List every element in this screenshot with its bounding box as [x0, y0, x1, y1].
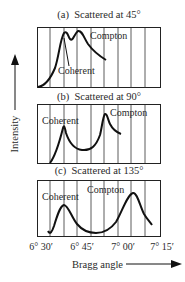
- panel-c-title: (c) Scattered at 135°: [55, 165, 144, 177]
- x-axis-label: Bragg angle: [72, 259, 123, 270]
- panel-b: Coherent Compton: [38, 105, 161, 164]
- x-tick-3: 7° 15′: [150, 241, 174, 252]
- panel-b-title: (b) Scattered at 90°: [57, 91, 141, 103]
- y-axis-arrow-icon: [11, 54, 19, 110]
- x-tick-0: 6° 30′: [29, 241, 53, 252]
- compton-scattering-figure: (a) Scattered at 45° (b) Scattered at 90…: [0, 0, 185, 282]
- panel-a: Coherent Compton: [38, 28, 161, 89]
- panel-c-compton-label: Compton: [87, 184, 124, 195]
- x-axis-arrow-icon: [126, 260, 182, 268]
- panel-b-coherent-label: Coherent: [42, 115, 79, 126]
- y-axis-label: Intensity: [9, 115, 20, 152]
- panel-a-compton-label: Compton: [90, 30, 127, 41]
- panel-b-compton-label: Compton: [110, 107, 147, 118]
- x-tick-2: 7° 00′: [111, 241, 135, 252]
- panel-a-coherent-label: Coherent: [58, 65, 95, 76]
- panel-a-title: (a) Scattered at 45°: [57, 9, 141, 21]
- panel-c-coherent-label: Coherent: [42, 191, 79, 202]
- x-tick-1: 6° 45′: [70, 241, 94, 252]
- panel-c: Coherent Compton: [38, 181, 161, 237]
